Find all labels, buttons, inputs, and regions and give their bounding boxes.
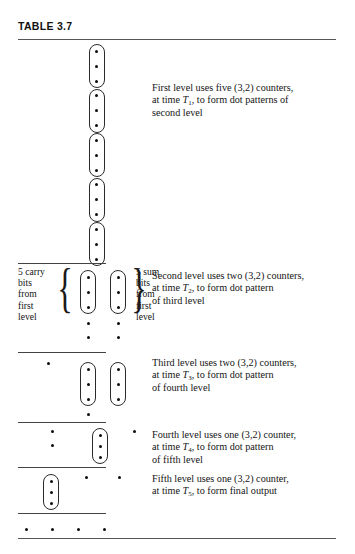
- second-level-description: Second level uses two (3,2) counters,at …: [152, 270, 342, 307]
- label-line: first: [18, 300, 45, 311]
- output-dot: [77, 528, 80, 531]
- counter-dot: [87, 306, 90, 309]
- description-line: of fourth level: [152, 382, 342, 394]
- table-title: TABLE 3.7: [18, 20, 72, 32]
- counter-dot: [95, 109, 98, 112]
- output-dot: [51, 528, 54, 531]
- counter-dot: [117, 368, 120, 371]
- counter-dot: [50, 491, 53, 494]
- left-brace: {: [57, 261, 73, 315]
- description-line: Third level uses two (3,2) counters,: [152, 357, 342, 369]
- counter-dot: [95, 183, 98, 186]
- counter-dot: [50, 502, 53, 505]
- counter-dot: [117, 398, 120, 401]
- counter-dot: [50, 480, 53, 483]
- separator-rule-5: [18, 513, 106, 514]
- loose-dot: [85, 476, 88, 479]
- separator-rule-3: [18, 422, 106, 423]
- table-figure-page: TABLE 3.7 First level uses five (3,2) co…: [0, 0, 355, 554]
- loose-dot: [51, 430, 54, 433]
- description-line: at time T1, to form dot patterns of: [152, 94, 342, 106]
- separator-rule-4: [18, 467, 106, 468]
- counter-dot: [95, 258, 98, 261]
- counter-dot: [87, 383, 90, 386]
- loose-dot: [87, 322, 90, 325]
- counter-dot: [87, 398, 90, 401]
- right-brace: }: [131, 261, 147, 315]
- loose-dot: [87, 336, 90, 339]
- loose-dot: [51, 444, 54, 447]
- counter-dot: [117, 291, 120, 294]
- counter-dot: [99, 456, 102, 459]
- loose-dot: [133, 430, 136, 433]
- loose-dot: [47, 362, 50, 365]
- first-level-description: First level uses five (3,2) counters,at …: [152, 82, 342, 119]
- description-line: at time T2, to form dot pattern: [152, 282, 342, 294]
- counter-dot: [95, 65, 98, 68]
- loose-dot: [118, 476, 121, 479]
- description-line: of fifth level: [152, 454, 342, 466]
- counter-dot: [87, 276, 90, 279]
- output-dot: [25, 528, 28, 531]
- counter-dot: [95, 80, 98, 83]
- counter-dot: [87, 368, 90, 371]
- description-line: First level uses five (3,2) counters,: [152, 82, 342, 94]
- separator-rule-2: [18, 352, 106, 353]
- carry-bits-label: 5 carrybitsfromfirstlevel: [18, 266, 45, 322]
- counter-dot: [95, 154, 98, 157]
- description-line: at time T3, to form dot pattern: [152, 369, 342, 381]
- label-line: bits: [18, 277, 45, 288]
- counter-dot: [95, 198, 98, 201]
- counter-dot: [95, 50, 98, 53]
- label-line: level: [18, 311, 45, 322]
- description-line: at time T5, to form final output: [152, 485, 342, 497]
- description-line: of third level: [152, 295, 342, 307]
- footer-rule: [18, 538, 336, 539]
- counter-dot: [87, 291, 90, 294]
- loose-dot: [117, 322, 120, 325]
- counter-dot: [95, 228, 98, 231]
- header-rule: [18, 39, 336, 40]
- label-line: from: [18, 288, 45, 299]
- fifth-level-description: Fifth level uses one (3,2) counter,at ti…: [152, 473, 342, 498]
- fourth-level-description: Fourth level uses one (3,2) counter,at t…: [152, 429, 342, 466]
- counter-dot: [99, 445, 102, 448]
- counter-dot: [95, 169, 98, 172]
- counter-dot: [117, 383, 120, 386]
- counter-dot: [99, 434, 102, 437]
- counter-dot: [95, 243, 98, 246]
- counter-dot: [117, 306, 120, 309]
- description-line: Fourth level uses one (3,2) counter,: [152, 429, 342, 441]
- output-dot: [103, 528, 106, 531]
- label-line: 5 carry: [18, 266, 45, 277]
- third-level-description: Third level uses two (3,2) counters,at t…: [152, 357, 342, 394]
- counter-dot: [95, 124, 98, 127]
- description-line: Second level uses two (3,2) counters,: [152, 270, 342, 282]
- loose-dot: [87, 413, 90, 416]
- description-line: at time T4, to form dot pattern: [152, 441, 342, 453]
- loose-dot: [117, 336, 120, 339]
- counter-dot: [95, 94, 98, 97]
- counter-dot: [117, 276, 120, 279]
- description-line: Fifth level uses one (3,2) counter,: [152, 473, 342, 485]
- description-line: second level: [152, 107, 342, 119]
- counter-dot: [95, 139, 98, 142]
- counter-dot: [95, 213, 98, 216]
